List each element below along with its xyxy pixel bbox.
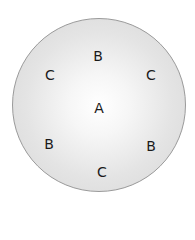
label-top-b: B [93, 49, 103, 63]
label-lower-left-b: B [44, 137, 54, 151]
label-bottom-c: C [97, 165, 107, 179]
label-lower-right-b: B [146, 139, 156, 153]
label-upper-right-c: C [146, 68, 156, 82]
label-center-a: A [94, 101, 104, 115]
label-upper-left-c: C [45, 68, 55, 82]
